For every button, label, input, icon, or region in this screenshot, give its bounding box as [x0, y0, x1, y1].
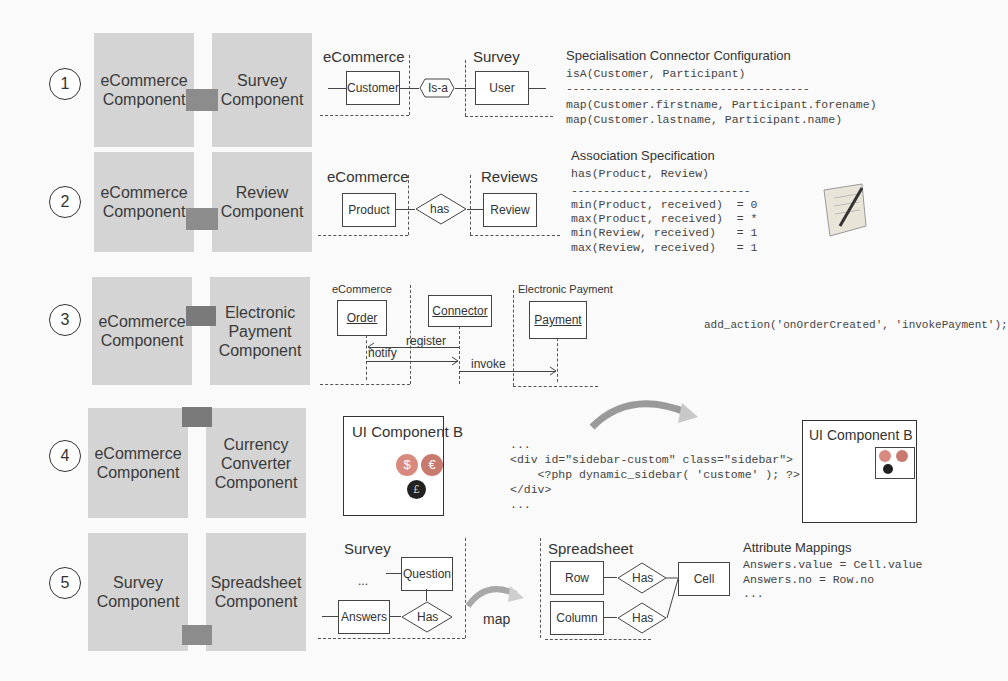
- entity-box[interactable]: Review: [483, 193, 537, 227]
- component-label: eCommerce Component: [99, 183, 189, 221]
- component-piece-left[interactable]: eCommerce Component: [94, 33, 194, 147]
- component-label: Survey Component: [93, 573, 183, 611]
- spec-header: has(Product, Review): [571, 166, 709, 181]
- entity-box[interactable]: Row: [550, 561, 604, 595]
- domain-label: eCommerce: [323, 48, 405, 65]
- component-label: Survey Component: [217, 71, 307, 109]
- arrowheads: [366, 342, 566, 376]
- component-piece-right[interactable]: Survey Component: [212, 33, 312, 147]
- object-box[interactable]: Connector: [428, 295, 492, 327]
- step-number: 4: [49, 440, 81, 472]
- spec-line: min(Product, received) = 0: [571, 197, 757, 212]
- dollar-coin-icon[interactable]: $: [396, 454, 418, 476]
- spec-line: max(Review, received) = 1: [571, 240, 757, 255]
- euro-coin-icon: [896, 450, 908, 462]
- map-arrow: [466, 580, 526, 610]
- component-piece-right[interactable]: Currency Converter Component: [206, 408, 306, 518]
- component-label: eCommerce Component: [93, 444, 183, 482]
- step-number: 3: [49, 304, 81, 336]
- domain-label: Survey: [344, 540, 391, 557]
- entity-box[interactable]: Column: [550, 601, 604, 635]
- spec-line: max(Product, received) = *: [571, 211, 757, 226]
- domain-label: Spreadsheet: [548, 540, 633, 557]
- spec-line: min(Review, received) = 1: [571, 225, 757, 240]
- relation-label: Has: [417, 610, 438, 624]
- pound-coin-icon: [883, 464, 893, 474]
- component-piece-left[interactable]: Survey Component: [88, 533, 188, 651]
- component-piece-right[interactable]: Electronic Payment Component: [210, 277, 310, 385]
- object-box[interactable]: Order: [337, 300, 387, 336]
- spec-line: Answers.value = Cell.value: [743, 557, 922, 572]
- connector-piece: [182, 407, 212, 427]
- domain-label: eCommerce: [327, 168, 409, 185]
- boundary: [465, 116, 553, 117]
- domain-label: Reviews: [481, 168, 538, 185]
- domain-label: Electronic Payment: [518, 283, 613, 295]
- spec-line: Answers.no = Row.no: [743, 572, 874, 587]
- embedded-sidebar[interactable]: [875, 447, 915, 479]
- ui-component-before[interactable]: UI Component B $ € £: [343, 416, 444, 516]
- ui-title: UI Component B: [809, 427, 913, 443]
- code-line: ...: [510, 437, 531, 452]
- component-piece-left[interactable]: eCommerce Component: [88, 408, 188, 518]
- ui-component-after[interactable]: UI Component B: [802, 420, 917, 523]
- step-number: 5: [49, 567, 81, 599]
- euro-coin-icon[interactable]: €: [421, 454, 443, 476]
- relation-label: Is-a: [428, 81, 448, 95]
- boundary: [320, 115, 409, 116]
- connector-piece: [182, 625, 212, 645]
- component-label: Review Component: [217, 183, 307, 221]
- object-box[interactable]: Payment: [529, 301, 587, 339]
- pound-coin-icon[interactable]: £: [407, 480, 426, 499]
- component-piece-left[interactable]: eCommerce Component: [92, 277, 192, 385]
- code-line: ...: [510, 497, 531, 512]
- connector-piece: [186, 306, 216, 326]
- component-piece-right[interactable]: Spreadsheet Component: [206, 533, 306, 651]
- component-piece-right[interactable]: Review Component: [212, 152, 312, 252]
- relation-label: Has: [632, 571, 653, 585]
- component-label: Electronic Payment Component: [217, 303, 303, 360]
- domain-label: Survey: [473, 48, 520, 65]
- dollar-coin-icon: [879, 450, 891, 462]
- spec-title: Attribute Mappings: [743, 540, 851, 555]
- entity-box[interactable]: Question: [401, 557, 453, 591]
- boundary: [409, 55, 410, 115]
- component-piece-left[interactable]: eCommerce Component: [94, 152, 194, 252]
- notepad-pen-icon[interactable]: [822, 182, 872, 238]
- entity-box[interactable]: Product: [342, 193, 396, 227]
- spec-title: Association Specification: [571, 148, 715, 163]
- step-number: 1: [49, 68, 81, 100]
- connector-piece: [186, 208, 218, 230]
- spec-title: Specialisation Connector Configuration: [566, 48, 791, 63]
- relation-label: Has: [632, 611, 653, 625]
- component-label: eCommerce Component: [99, 71, 189, 109]
- step-number: 2: [49, 186, 81, 218]
- action-code: add_action('onOrderCreated', 'invokePaym…: [704, 318, 1008, 333]
- component-label: Currency Converter Component: [213, 435, 299, 492]
- connector-piece: [186, 89, 218, 111]
- entity-box[interactable]: Cell: [678, 562, 730, 596]
- ui-title: UI Component B: [352, 423, 463, 440]
- entity-box[interactable]: Customer: [346, 71, 400, 105]
- spec-line: ...: [743, 586, 764, 601]
- relation-label: has: [430, 202, 449, 216]
- component-label: eCommerce Component: [97, 312, 187, 350]
- domain-label: eCommerce: [332, 283, 392, 295]
- map-label: map: [483, 611, 510, 627]
- spec-header: isA(Customer, Participant): [566, 66, 745, 81]
- spec-line: map(Customer.firstname, Participant.fore…: [566, 97, 877, 112]
- code-line: </div>: [510, 482, 551, 497]
- entity-box[interactable]: User: [475, 71, 529, 105]
- component-label: Spreadsheet Component: [208, 573, 304, 611]
- code-line: <?php dynamic_sidebar( 'custome' ); ?>: [510, 467, 800, 482]
- curved-arrow: [590, 395, 700, 431]
- entity-box[interactable]: Answers: [338, 600, 390, 634]
- code-line: <div id="sidebar-custom" class="sidebar"…: [510, 452, 793, 467]
- spec-line: map(Customer.lastname, Participant.name): [566, 112, 842, 127]
